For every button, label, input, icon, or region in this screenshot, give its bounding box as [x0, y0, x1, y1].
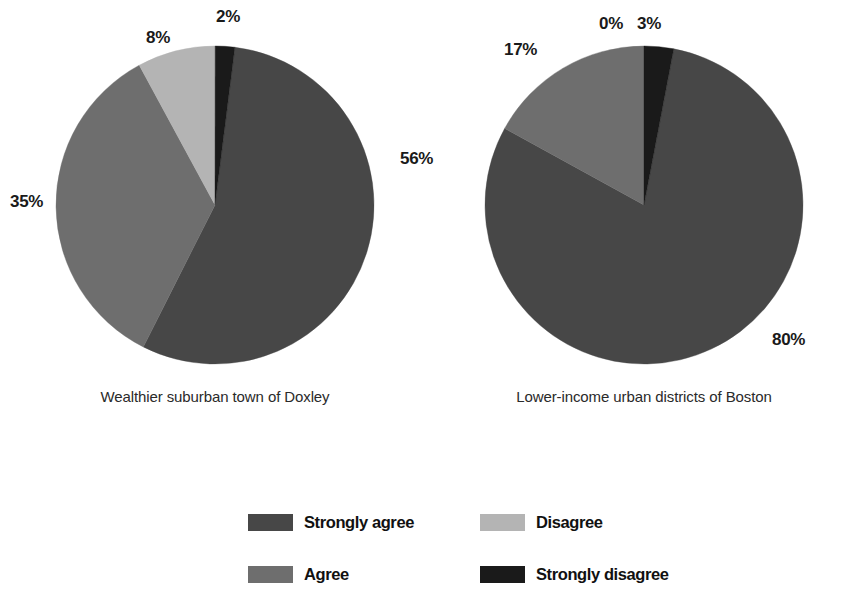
- pie-slice-label-strongly-agree: 80%: [772, 331, 805, 348]
- legend-label: Agree: [304, 566, 349, 583]
- legend-swatch-icon: [248, 514, 293, 531]
- legend-swatch-icon: [248, 566, 293, 583]
- pie-svg-boston: [484, 45, 804, 365]
- legend-label: Strongly disagree: [536, 566, 669, 583]
- pie-caption-doxley: Wealthier suburban town of Doxley: [0, 389, 430, 404]
- pie-slice-label-strongly-disagree: 2%: [216, 8, 240, 25]
- pie-slice-label-agree: 17%: [504, 41, 537, 58]
- legend-item-strongly-agree: Strongly agree: [248, 514, 480, 531]
- legend-item-strongly-disagree: Strongly disagree: [480, 566, 668, 583]
- pie-chart-doxley: [55, 45, 375, 365]
- legend-item-agree: Agree: [248, 566, 480, 583]
- pie-panel-boston: 80% 17% 0% 3% Lower-income urban distric…: [429, 0, 859, 420]
- legend-label: Strongly agree: [304, 514, 414, 531]
- pie-chart-boston: [484, 45, 804, 365]
- legend-label: Disagree: [536, 514, 603, 531]
- pie-slice-label-disagree: 8%: [146, 29, 170, 46]
- pie-slice-label-agree: 35%: [10, 193, 43, 210]
- legend-item-disagree: Disagree: [480, 514, 668, 531]
- pie-panel-doxley: 56% 35% 8% 2% Wealthier suburban town of…: [0, 0, 430, 420]
- chart-legend: Strongly agree Disagree Agree Strongly d…: [248, 496, 668, 600]
- pie-caption-boston: Lower-income urban districts of Boston: [429, 389, 859, 404]
- pie-slice-label-disagree: 0%: [599, 15, 623, 32]
- legend-swatch-icon: [480, 514, 525, 531]
- pie-slice-label-strongly-disagree: 3%: [637, 15, 661, 32]
- pie-chart-figure: 56% 35% 8% 2% Wealthier suburban town of…: [0, 0, 859, 602]
- legend-swatch-icon: [480, 566, 525, 583]
- pie-svg-doxley: [55, 45, 375, 365]
